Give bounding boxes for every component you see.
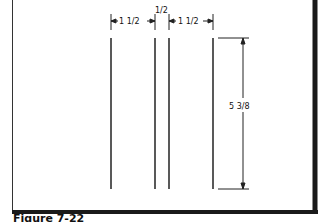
dimension-left-label: 1 1/2 (119, 17, 140, 26)
dimension-right-label: 1 1/2 (178, 17, 199, 26)
drawing-border (12, 0, 318, 214)
vertical-lines (111, 38, 213, 189)
technical-drawing: 1 1/2 1/2 1 1/2 5 3/8 (0, 0, 320, 222)
dimension-height-label: 5 3/8 (229, 102, 250, 111)
dimension-height (218, 38, 249, 189)
figure-caption: Figure 7-22 (13, 213, 84, 222)
dimension-gap-label: 1/2 (155, 6, 168, 15)
